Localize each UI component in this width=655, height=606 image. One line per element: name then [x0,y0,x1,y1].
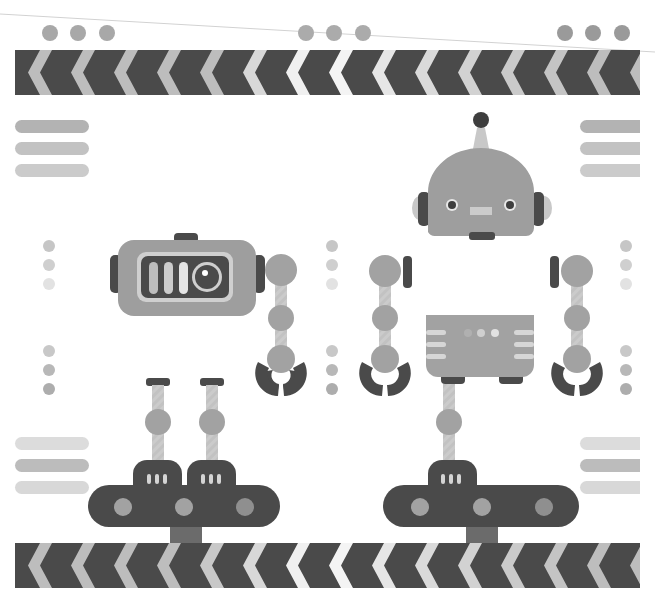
top-chevron-stripe [15,50,654,95]
side-bars-top-right [580,115,655,185]
camera-robot-head [110,233,265,316]
bottom-chevron-stripe [15,543,654,588]
right-robot-arm-right [550,255,603,396]
left-conveyor [88,485,280,545]
dot-column-center [326,240,338,395]
side-bars-top-left [15,120,89,177]
factory-robots-illustration: Factory robots on conveyor belts [0,0,655,606]
dot-column-right [620,240,632,395]
robot-mouth [470,207,492,215]
left-robot-legs [133,378,236,486]
right-conveyor [383,485,579,545]
side-bars-bottom-right [580,430,655,500]
robot-body-unit [426,315,534,384]
top-dots [42,25,630,41]
right-robot-arm-left [359,255,412,396]
side-bars-bottom-left [15,437,89,494]
dot-column-left [43,240,55,395]
right-robot-leg [428,384,477,486]
round-head-robot [412,112,552,240]
